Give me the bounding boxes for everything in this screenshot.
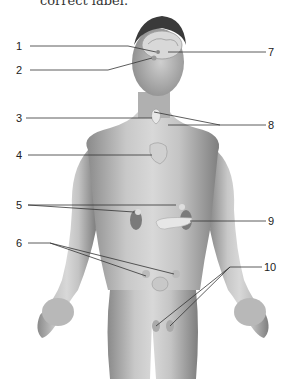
right-adrenal-gland [179,204,185,210]
pituitary-gland [152,56,157,61]
label-1: 1 [16,40,22,52]
label-3: 3 [16,112,22,124]
endocrine-diagram [0,0,300,379]
left-adrenal-gland [135,209,141,215]
label-2: 2 [16,64,22,76]
label-9: 9 [268,215,274,227]
label-8: 8 [268,119,274,131]
label-7: 7 [268,46,274,58]
left-ovary [142,270,150,278]
pineal-gland [156,50,160,54]
label-5: 5 [16,199,22,211]
label-6: 6 [16,237,22,249]
label-10: 10 [264,261,276,273]
label-4: 4 [16,149,22,161]
uterus [152,277,168,291]
